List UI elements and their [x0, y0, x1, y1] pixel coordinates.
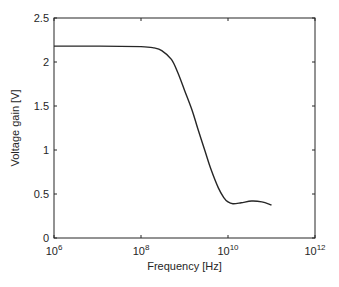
x-tick-label: 1010	[217, 243, 239, 257]
y-axis-label: Voltage gain [V]	[9, 89, 21, 166]
y-tick-label: 2.5	[34, 12, 49, 24]
x-tick-label: 108	[133, 243, 150, 257]
x-tick-label: 1012	[304, 243, 326, 257]
chart: 00.511.522.5 10610810101012 Frequency [H…	[0, 0, 339, 287]
y-tick-label: 0	[43, 232, 49, 244]
y-tick-label: 1.5	[34, 100, 49, 112]
y-tick-label: 0.5	[34, 188, 49, 200]
y-tick-label: 2	[43, 56, 49, 68]
x-axis-label: Frequency [Hz]	[147, 260, 222, 272]
y-tick-label: 1	[43, 144, 49, 156]
x-tick-label: 106	[46, 243, 63, 257]
plot-area	[54, 18, 315, 238]
